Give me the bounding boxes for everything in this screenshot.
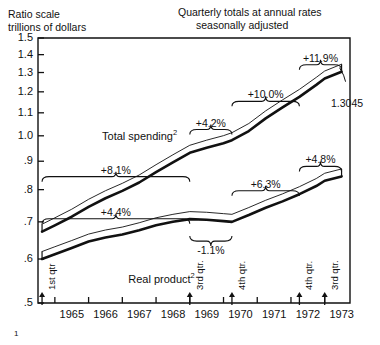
growth-rate-label: +4.2% [191, 117, 231, 129]
quarter-marker-label: 1st qtr [46, 264, 57, 290]
quarter-marker-label: 4th qtr. [236, 261, 247, 290]
growth-rate-label: +10.0% [246, 88, 286, 100]
y-tick-label: .7 [0, 215, 33, 227]
growth-rate-label: -1.1% [191, 244, 231, 256]
series-label-total-spending: Total spending2 [90, 116, 177, 154]
growth-rate-label: +4.4% [96, 206, 136, 218]
y-tick-label: .9 [0, 154, 33, 166]
footnote-marker: 1 [14, 330, 18, 339]
y-tick-label: 1.2 [0, 85, 33, 97]
y-tick-label: 1.5 [0, 31, 33, 43]
y-tick-label: .5 [0, 296, 33, 308]
x-tick-label: 1973 [322, 308, 362, 320]
y-tick-label: 1.3 [0, 66, 33, 78]
y-tick-label: .6 [0, 252, 33, 264]
growth-rate-label: +6.3% [246, 178, 286, 190]
y-tick-label: 1.1 [0, 106, 33, 118]
growth-rate-label: +4.8% [300, 153, 340, 165]
growth-rate-label: +8.1% [96, 164, 136, 176]
y-tick-label: .8 [0, 183, 33, 195]
endpoint-value-label: 1.3045 [331, 97, 363, 109]
quarter-marker-label: 4th qtr. [303, 261, 314, 290]
series-label-real-product-sup: 2 [191, 271, 195, 280]
series-label-real-product: Real product2 [116, 259, 195, 297]
y-tick-label: 1.0 [0, 129, 33, 141]
series-label-real-product-text: Real product [128, 273, 190, 285]
quarter-marker-label: 3rd qtr. [329, 260, 340, 290]
series-label-total-spending-text: Total spending [102, 130, 173, 142]
growth-rate-label: +11.9% [300, 52, 340, 64]
quarter-marker-label: 3rd qtr. [194, 260, 205, 290]
chart-figure: Ratio scale trillions of dollars Quarter… [0, 0, 380, 345]
y-tick-label: 1.4 [0, 48, 33, 60]
series-label-total-spending-sup: 2 [173, 128, 177, 137]
